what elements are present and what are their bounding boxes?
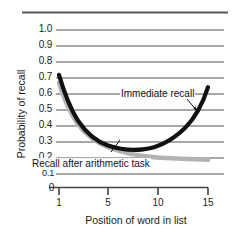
x-tick-label-15: 15 [198, 197, 218, 208]
y-tick-label-0.9: 0.9 [26, 39, 52, 50]
series-line-immediate-recall [59, 75, 208, 150]
y-tick-label-1.0: 1.0 [26, 23, 52, 34]
y-tick-label-0.7: 0.7 [26, 71, 52, 82]
annotation-immediate-recall: Immediate recall [120, 88, 195, 99]
x-tick-label-1: 1 [49, 197, 69, 208]
y-tick-label-0.3: 0.3 [26, 135, 52, 146]
y-tick-label-0.4: 0.4 [26, 119, 52, 130]
y-tick-label-0.5: 0.5 [26, 103, 52, 114]
x-axis-title: Position of word in list [46, 214, 226, 226]
annotation-arithmetic-recall: Recall after arithmetic task [31, 158, 151, 169]
x-tick-label-5: 5 [98, 197, 118, 208]
y-tick-label-0.8: 0.8 [26, 55, 52, 66]
y-axis-title: Probability of recall [15, 49, 27, 179]
y-tick-label-0.6: 0.6 [26, 87, 52, 98]
x-tick-label-10: 10 [148, 197, 168, 208]
x-axis-ticks [59, 188, 208, 196]
gridlines [56, 30, 224, 174]
serial-position-chart: 1.0 0.9 0.8 0.7 0.6 0.5 0.4 0.3 0.2 0.1 … [0, 0, 241, 237]
y-tick-label-0: 0 [28, 182, 54, 193]
y-tick-label-0.1: 0.1 [28, 168, 54, 178]
